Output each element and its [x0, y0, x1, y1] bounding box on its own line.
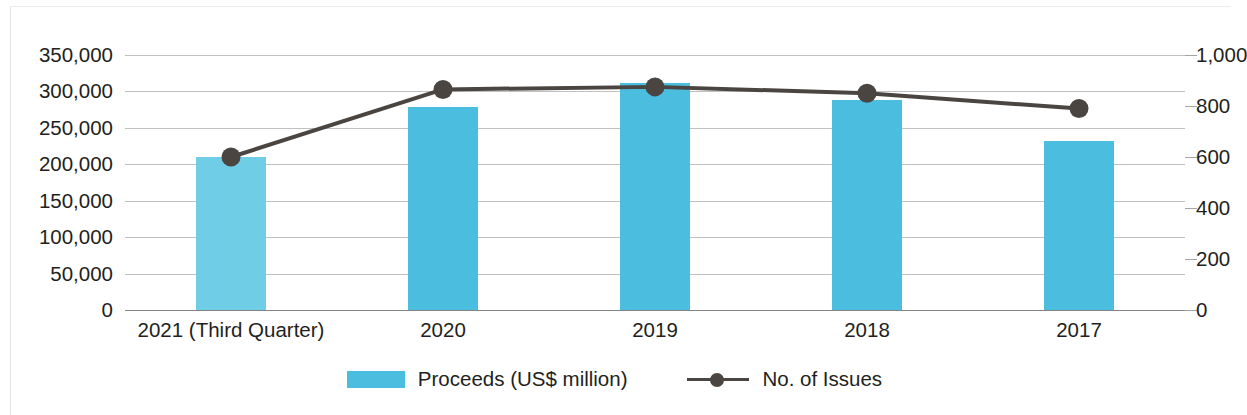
line-marker [434, 80, 453, 99]
chart-legend: Proceeds (US$ million) No. of Issues [0, 368, 1229, 390]
line-path [231, 87, 1079, 157]
legend-label-issues: No. of Issues [762, 368, 882, 390]
line-marker-icon [687, 372, 749, 386]
line-marker [858, 84, 877, 103]
x-tick-label: 2020 [420, 318, 466, 342]
x-tick-label: 2018 [844, 318, 890, 342]
line-marker [222, 148, 241, 167]
x-tick-label: 2019 [632, 318, 678, 342]
bar-swatch-icon [347, 371, 405, 388]
x-tick-label: 2021 (Third Quarter) [138, 318, 325, 342]
legend-item-issues[interactable]: No. of Issues [687, 368, 882, 390]
line-marker [1070, 99, 1089, 118]
line-marker [646, 77, 665, 96]
x-tick-label: 2017 [1056, 318, 1102, 342]
legend-item-proceeds[interactable]: Proceeds (US$ million) [347, 368, 628, 390]
legend-label-proceeds: Proceeds (US$ million) [418, 368, 628, 390]
